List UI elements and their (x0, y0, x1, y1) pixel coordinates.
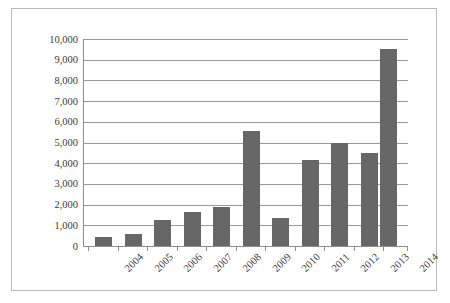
bars-layer (83, 39, 408, 246)
x-tick (88, 246, 89, 251)
x-tick-label-2009: 2009 (271, 252, 293, 274)
bar-2009 (243, 131, 260, 246)
x-tick (118, 246, 119, 251)
bar-2005 (125, 234, 142, 246)
x-tick-label-2012: 2012 (359, 252, 381, 274)
x-tick (265, 246, 266, 251)
y-tick-label: 0 (73, 242, 78, 253)
x-tick-label-2010: 2010 (300, 252, 322, 274)
bar-2006 (154, 220, 171, 246)
y-tick-label: 8,000 (54, 76, 78, 87)
bar-2014 (380, 49, 397, 246)
x-tick (147, 246, 148, 251)
x-tick-label-2011: 2011 (330, 252, 352, 274)
x-tick-label-2006: 2006 (182, 252, 204, 274)
x-tick-label-2005: 2005 (153, 252, 175, 274)
x-tick (295, 246, 296, 251)
x-tick (177, 246, 178, 251)
bar-2011 (302, 160, 319, 246)
y-tick-label: 7,000 (54, 97, 78, 108)
y-axis-labels: 10,000 9,000 8,000 7,000 6,000 5,000 4,0… (22, 0, 78, 303)
x-tick-label-2008: 2008 (241, 252, 263, 274)
x-tick (407, 246, 408, 251)
x-tick-label-2013: 2013 (389, 252, 411, 274)
y-tick-label: 10,000 (49, 35, 78, 46)
x-tick (324, 246, 325, 251)
bar-2013 (361, 153, 378, 246)
x-tick (383, 246, 384, 251)
x-tick (206, 246, 207, 251)
y-tick-label: 2,000 (54, 200, 78, 211)
x-tick-label-2004: 2004 (123, 252, 145, 274)
x-tick-label-2007: 2007 (212, 252, 234, 274)
y-tick-label: 4,000 (54, 159, 78, 170)
y-tick-label: 6,000 (54, 117, 78, 128)
bar-2010 (272, 218, 289, 246)
bar-2007 (184, 212, 201, 246)
x-tick (354, 246, 355, 251)
chart-screenshot: 10,000 9,000 8,000 7,000 6,000 5,000 4,0… (0, 0, 450, 303)
x-axis-labels: 2004 2005 2006 2007 2008 2009 2010 2011 … (83, 252, 408, 292)
y-tick-label: 9,000 (54, 55, 78, 66)
bar-2004 (95, 237, 112, 246)
x-tick (236, 246, 237, 251)
y-tick-label: 3,000 (54, 179, 78, 190)
bar-2008 (213, 207, 230, 246)
y-tick-label: 5,000 (54, 138, 78, 149)
bar-2012 (331, 143, 348, 247)
y-tick-label: 1,000 (54, 221, 78, 232)
